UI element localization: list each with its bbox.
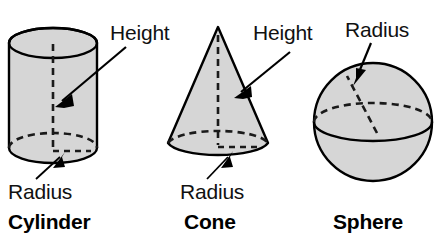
shape-name-cone: Cone [184,211,236,232]
cylinder-shape [9,28,97,163]
cone-height-label: Height [253,22,313,43]
cone-height-leader [234,52,290,99]
cone-radius-label: Radius [180,181,244,202]
cylinder-radius-label: Radius [8,181,72,202]
sphere-radius-label: Radius [345,19,409,40]
shape-name-cylinder: Cylinder [8,211,90,232]
cone-shape [168,27,268,155]
sphere-shape [314,63,432,181]
geometric-solids-figure: Height Radius Height Radius Radius Cylin… [0,0,437,238]
cylinder-height-label: Height [110,22,170,43]
shape-name-sphere: Sphere [333,211,403,232]
